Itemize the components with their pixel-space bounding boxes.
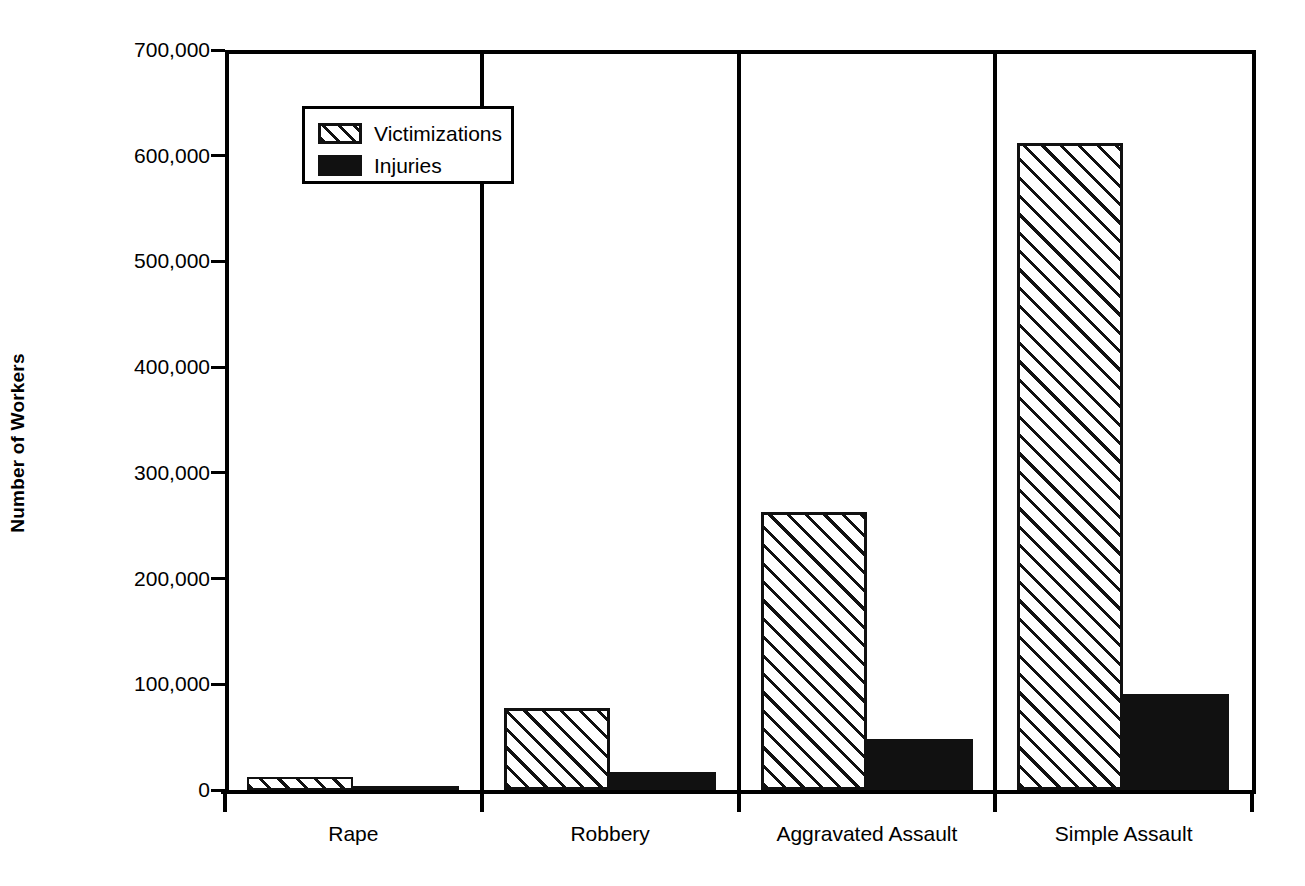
category-separator (737, 50, 741, 812)
chart-legend: VictimizationsInjuries (302, 106, 514, 184)
y-axis-tick-mark (211, 683, 225, 686)
right-spine (1252, 50, 1256, 794)
y-axis-tick-label: 200,000 (50, 568, 210, 589)
y-axis-tick-mark (211, 260, 225, 263)
x-axis-category-label: Rape (225, 822, 482, 846)
legend-item: Injuries (318, 150, 501, 180)
bar-chart-figure: Number of Workers 0100,000200,000300,000… (0, 0, 1305, 886)
bar-injuries-robbery (610, 772, 716, 790)
hatch-swatch (318, 123, 362, 144)
category-separator (993, 50, 997, 812)
x-axis-category-label: Robbery (482, 822, 739, 846)
bar-victimizations-robbery (504, 708, 610, 790)
y-axis-tick-mark (211, 49, 225, 52)
bar-victimizations-aggravated-assault (761, 512, 867, 790)
y-axis-tick-label: 500,000 (50, 250, 210, 271)
y-axis-tick-label: 0 (50, 779, 210, 800)
x-axis-category-label: Simple Assault (995, 822, 1252, 846)
bar-victimizations-rape (247, 777, 353, 790)
legend-item-label: Injuries (374, 155, 442, 176)
legend-item-label: Victimizations (374, 123, 502, 144)
bar-victimizations-simple-assault (1017, 143, 1123, 790)
y-axis-tick-labels: 0100,000200,000300,000400,000500,000600,… (40, 0, 210, 886)
y-axis-tick-marks (211, 0, 225, 886)
bar-injuries-aggravated-assault (867, 739, 973, 790)
y-axis-tick-label: 100,000 (50, 673, 210, 694)
y-axis-tick-label: 600,000 (50, 145, 210, 166)
legend-item: Victimizations (318, 118, 501, 148)
x-axis-category-label: Aggravated Assault (739, 822, 996, 846)
y-axis-tick-mark (211, 366, 225, 369)
solid-swatch (318, 155, 362, 176)
y-axis-tick-mark (211, 154, 225, 157)
bar-injuries-simple-assault (1123, 694, 1229, 790)
bar-injuries-rape (353, 786, 459, 790)
y-axis-tick-mark (211, 471, 225, 474)
y-axis-tick-mark (211, 577, 225, 580)
x-axis-edge-tick (1250, 790, 1254, 812)
x-axis-edge-tick (223, 790, 227, 812)
y-axis-tick-label: 400,000 (50, 356, 210, 377)
y-axis-tick-label: 300,000 (50, 462, 210, 483)
y-axis-tick-label: 700,000 (50, 39, 210, 60)
